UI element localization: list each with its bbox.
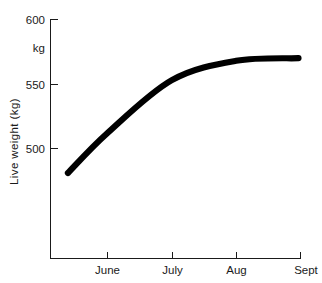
y-axis-unit-label: kg [33,42,45,54]
y-tick-label-550: 550 [26,79,45,91]
y-tick-label-500: 500 [26,143,45,155]
y-axis-title: Live weight (kg) [8,98,20,185]
x-tick-label-sept: Sept [294,264,318,276]
y-tick-label-600: 600 [26,14,45,26]
chart-background [0,0,322,283]
chart-canvas: 600 550 500 kg Live weight (kg) June Jul… [0,0,322,283]
x-tick-label-june: June [95,264,120,276]
live-weight-chart: 600 550 500 kg Live weight (kg) June Jul… [0,0,322,283]
x-tick-label-aug: Aug [226,264,246,276]
x-tick-label-july: July [162,264,183,276]
